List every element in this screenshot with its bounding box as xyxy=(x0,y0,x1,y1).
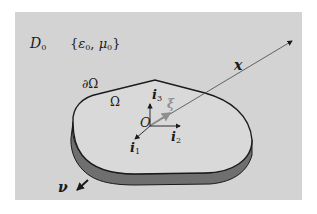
material-parameters-label: {ε0, μ0} xyxy=(70,37,120,52)
i1-label: i1 xyxy=(130,141,140,156)
origin-label: O xyxy=(140,116,151,129)
diagram-canvas xyxy=(0,0,317,214)
i2-label: i2 xyxy=(171,130,181,145)
xi-label: ξ xyxy=(167,98,174,110)
x-vector-label: x xyxy=(234,58,242,72)
i3-label: i3 xyxy=(152,88,162,103)
body-top-face xyxy=(73,80,252,174)
domain-label: D0 xyxy=(30,36,46,52)
normal-vector-arrow xyxy=(77,180,88,190)
body-label: Ω xyxy=(110,96,120,108)
boundary-label: ∂Ω xyxy=(82,78,98,90)
normal-vector-label: ν xyxy=(58,180,68,194)
